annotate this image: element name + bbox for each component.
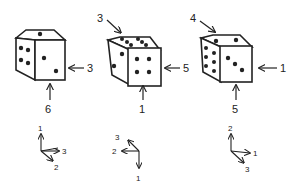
die-1-left-face [16,38,35,80]
axis-label: 2 [112,147,117,156]
pip [204,64,208,68]
pip [135,57,139,61]
die-3-right-label: 1 [280,62,286,74]
pip [147,70,151,74]
pip [125,40,129,44]
pip [19,58,23,62]
pip [112,64,116,68]
dice-diagram: 3 6 3 5 1 [0,0,298,191]
die-2: 3 5 1 [97,12,189,115]
pip [26,48,30,52]
pip [240,68,244,72]
pip [204,46,208,50]
pip [129,43,133,47]
die-1-bottom-label: 6 [45,103,51,115]
pip [204,55,208,59]
pip [144,43,148,47]
die-2-front-face [128,48,161,86]
axis-label: 3 [245,165,250,174]
pip [233,62,237,66]
pip [120,37,124,41]
die-3-bottom-label: 5 [232,103,238,115]
axis-label: 1 [253,149,258,158]
diagonal-arrow-icon [107,20,121,33]
pip [212,60,216,64]
axes-3: 2 1 3 [228,124,258,174]
pip [26,61,30,65]
axis-label: 2 [54,163,59,172]
die-1-front-face [35,40,65,80]
axis-arrow-icon [231,151,250,153]
die-3-top-label: 4 [190,12,196,24]
die-1-right-label: 3 [87,62,93,74]
axis-arrow-icon [231,151,244,163]
die-2-top-label: 3 [97,12,103,24]
diagonal-arrow-icon [200,21,215,32]
pip [135,70,139,74]
pip [54,69,58,73]
pip [19,46,23,50]
die-2-right-label: 5 [183,62,189,74]
axis-label: 3 [62,147,67,156]
axis-label: 1 [38,124,43,133]
die-3: 4 1 5 [190,12,286,115]
die-2-bottom-label: 1 [139,103,145,115]
pip [212,51,216,55]
pip [147,57,151,61]
pip [136,37,140,41]
pip [120,52,124,56]
axes-2: 1 2 3 [112,133,141,183]
axes-1: 1 3 2 [38,124,67,172]
pip [234,38,238,42]
pip [140,40,144,44]
pip [42,56,46,60]
axis-label: 1 [136,174,141,183]
axis-label: 3 [115,133,120,142]
pip [38,32,42,36]
pip [214,39,218,43]
pip [212,69,216,73]
die-1: 3 6 [16,30,93,115]
axis-arrow-icon [128,140,139,151]
pip [226,56,230,60]
axis-arrow-icon [41,151,53,161]
axis-label: 2 [228,124,233,133]
